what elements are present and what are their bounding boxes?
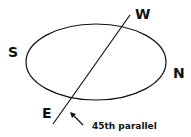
label-east: E [42,105,52,121]
orbit-diagram: W S N E 45th parallel [0,0,191,137]
label-west: W [135,6,150,22]
label-45th-parallel: 45th parallel [92,121,157,131]
arrow-icon [70,112,83,125]
orbit-ellipse [26,24,166,100]
parallel-line [53,15,130,124]
label-north: N [173,65,185,81]
label-south: S [8,44,18,60]
